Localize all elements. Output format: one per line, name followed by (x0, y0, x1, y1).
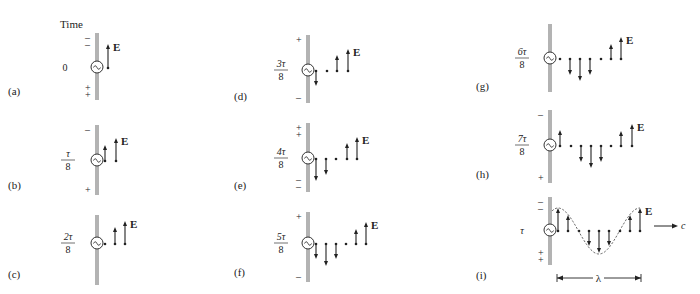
time-numerator: 2τ (64, 231, 73, 242)
panel-label: (g) (476, 80, 489, 93)
time-numerator: 5τ (277, 231, 286, 242)
panel-c: (c)2τ8E (8, 215, 137, 285)
time-numerator: 6τ (518, 46, 527, 57)
e-field-vectors (558, 124, 634, 168)
arrowhead-icon (123, 221, 127, 226)
e-field-vectors (103, 138, 118, 162)
top-charge-signs: – (84, 124, 91, 135)
arrowhead-icon (672, 224, 678, 229)
e-field-vectors (556, 208, 642, 253)
arrowhead-icon (355, 137, 359, 142)
field-origin-dot (610, 145, 613, 148)
arrowhead-icon (628, 215, 632, 220)
arrowhead-icon (113, 227, 117, 232)
panel-label: (f) (234, 266, 245, 279)
top-charge-signs: + (296, 34, 302, 45)
e-field-vectors (314, 49, 350, 86)
e-field-vectors (314, 137, 359, 181)
wavelength-label: λ (596, 272, 602, 284)
bottom-charge-signs: ++ (538, 247, 544, 265)
arrowhead-icon (557, 276, 563, 281)
field-origin-dot (559, 58, 562, 61)
arrowhead-icon (589, 163, 593, 168)
panel-a: (a)0––++E (8, 32, 120, 100)
time-denominator: 8 (279, 159, 284, 170)
arrowhead-icon (635, 276, 641, 281)
panel-label: (i) (476, 269, 487, 282)
bottom-charge-signs: –– (295, 174, 302, 192)
top-charge-signs: –– (537, 196, 544, 214)
bottom-charge-signs: + (538, 172, 544, 183)
panel-g: (g)6τ8E (476, 24, 633, 93)
arrowhead-icon (558, 130, 562, 135)
time-numerator: τ (66, 148, 70, 159)
arrowhead-icon (334, 254, 338, 259)
arrowhead-icon (587, 241, 591, 246)
panels-group: (a)0––++E(b)τ8–+E(c)2τ8E(d)3τ8+–E(e)4τ8+… (8, 24, 686, 285)
time-value: τ (520, 225, 524, 236)
arrowhead-icon (556, 208, 560, 213)
panel-e: (e)4τ8++––E (234, 122, 369, 192)
time-numerator: 4τ (277, 146, 286, 157)
arrowhead-icon (638, 208, 642, 213)
antenna-rod (95, 215, 99, 285)
top-charge-signs: –– (84, 32, 91, 50)
arrowhead-icon (346, 49, 350, 54)
panel-label: (b) (8, 179, 21, 192)
panel-b: (b)τ8–+E (8, 124, 128, 195)
arrowhead-icon (314, 176, 318, 181)
field-label-e: E (626, 34, 633, 46)
arrowhead-icon (103, 145, 107, 150)
time-denominator: 8 (520, 146, 525, 157)
wave-envelope-curve (552, 208, 640, 254)
field-label-e: E (353, 46, 360, 58)
time-denominator: 8 (279, 244, 284, 255)
e-field-vectors (104, 221, 127, 245)
field-label-e: E (130, 218, 137, 230)
panel-f: (f)5τ8+–E (234, 211, 378, 282)
arrowhead-icon (314, 254, 318, 259)
field-origin-dot (326, 70, 329, 73)
arrowhead-icon (619, 131, 623, 136)
time-denominator: 8 (66, 244, 71, 255)
time-numerator: 3τ (276, 58, 286, 69)
panel-i: (i)τ––++Ecλ (476, 196, 686, 284)
field-label-e: E (362, 134, 369, 146)
panel-label: (h) (476, 168, 489, 181)
speed-label-c: c (681, 220, 686, 231)
e-field-vectors (314, 222, 368, 266)
arrowhead-icon (314, 81, 318, 86)
arrowhead-icon (364, 222, 368, 227)
time-header: Time (60, 18, 83, 30)
e-field-vectors (106, 44, 110, 69)
arrowhead-icon (335, 55, 339, 60)
panel-label: (d) (234, 90, 247, 103)
arrowhead-icon (324, 261, 328, 266)
e-field-vectors (559, 37, 623, 81)
panel-d: (d)3τ8+–E (234, 34, 360, 103)
arrowhead-icon (578, 76, 582, 81)
field-origin-dot (335, 158, 338, 161)
time-value: 0 (63, 62, 68, 73)
field-origin-dot (570, 145, 573, 148)
bottom-charge-signs: – (295, 271, 302, 282)
panel-label: (c) (8, 268, 21, 281)
top-charge-signs: ++ (296, 122, 302, 140)
time-denominator: 8 (66, 161, 71, 172)
panel-h: (h)7τ8–+E (476, 109, 644, 183)
arrowhead-icon (597, 248, 601, 253)
bottom-charge-signs: ++ (85, 82, 91, 100)
arrowhead-icon (354, 229, 358, 234)
arrowhead-icon (345, 143, 349, 148)
field-label-e: E (113, 41, 120, 53)
field-label-e: E (371, 219, 378, 231)
arrowhead-icon (579, 157, 583, 162)
arrowhead-icon (324, 170, 328, 175)
field-origin-dot (345, 243, 348, 246)
time-denominator: 8 (279, 71, 284, 82)
arrowhead-icon (106, 44, 110, 49)
arrowhead-icon (588, 70, 592, 75)
top-charge-signs: + (296, 211, 302, 222)
arrowhead-icon (568, 70, 572, 75)
panel-label: (a) (8, 85, 21, 98)
